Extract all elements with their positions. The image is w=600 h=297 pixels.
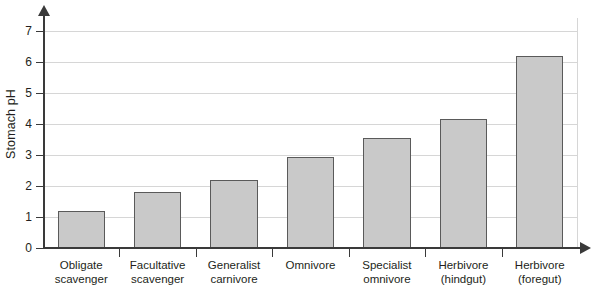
x-tick-mark-2 — [196, 249, 197, 257]
x-axis-arrow-icon — [580, 242, 591, 254]
category-label-3-line-0: Omnivore — [272, 258, 348, 272]
category-label-0-line-0: Obligate — [43, 258, 119, 272]
category-label-6: Herbivore(foregut) — [502, 258, 578, 286]
bar-4 — [363, 138, 410, 248]
y-tick-mark-0 — [36, 248, 43, 249]
x-tick-mark-1 — [119, 249, 120, 257]
category-label-4-line-0: Specialist — [349, 258, 425, 272]
category-label-2-line-0: Generalist — [196, 258, 272, 272]
category-label-2: Generalistcarnivore — [196, 258, 272, 286]
bar-2 — [210, 180, 257, 248]
category-label-0: Obligatescavenger — [43, 258, 119, 286]
y-tick-mark-3 — [36, 155, 43, 156]
y-tick-mark-2 — [36, 186, 43, 187]
gridline-6 — [43, 62, 578, 63]
category-label-0-line-1: scavenger — [43, 272, 119, 286]
x-tick-mark-3 — [272, 249, 273, 257]
category-label-4: Specialistomnivore — [349, 258, 425, 286]
bar-0 — [58, 211, 105, 248]
y-tick-label-2: 2 — [0, 180, 32, 192]
y-tick-mark-6 — [36, 62, 43, 63]
category-label-6-line-0: Herbivore — [502, 258, 578, 272]
gridline-4 — [43, 124, 578, 125]
gridline-5 — [43, 93, 578, 94]
x-tick-mark-5 — [425, 249, 426, 257]
category-label-6-line-1: (foregut) — [502, 272, 578, 286]
plot-right-border — [577, 18, 578, 248]
y-tick-label-6: 6 — [0, 56, 32, 68]
y-tick-mark-4 — [36, 124, 43, 125]
category-label-5-line-0: Herbivore — [425, 258, 501, 272]
x-tick-mark-6 — [502, 249, 503, 257]
category-label-2-line-1: carnivore — [196, 272, 272, 286]
y-tick-label-4: 4 — [0, 118, 32, 130]
y-axis-line — [43, 14, 45, 249]
category-label-3: Omnivore — [272, 258, 348, 272]
x-axis-line — [43, 247, 581, 249]
bar-3 — [287, 157, 334, 248]
y-tick-mark-5 — [36, 93, 43, 94]
y-tick-label-3: 3 — [0, 149, 32, 161]
category-label-1-line-0: Facultative — [119, 258, 195, 272]
bar-5 — [440, 119, 487, 248]
x-tick-mark-4 — [349, 249, 350, 257]
bar-1 — [134, 192, 181, 248]
y-tick-label-5: 5 — [0, 87, 32, 99]
gridline-7 — [43, 31, 578, 32]
y-tick-mark-1 — [36, 217, 43, 218]
bar-chart: Stomach pH 01234567 ObligatescavengerFac… — [0, 0, 600, 297]
plot-area — [43, 18, 578, 248]
y-tick-label-0: 0 — [0, 242, 32, 254]
y-tick-label-1: 1 — [0, 211, 32, 223]
y-tick-label-7: 7 — [0, 25, 32, 37]
category-label-5: Herbivore(hindgut) — [425, 258, 501, 286]
bar-6 — [516, 56, 563, 248]
y-axis-arrow-icon — [38, 5, 50, 16]
category-label-1-line-1: scavenger — [119, 272, 195, 286]
y-tick-mark-7 — [36, 31, 43, 32]
category-label-5-line-1: (hindgut) — [425, 272, 501, 286]
category-label-4-line-1: omnivore — [349, 272, 425, 286]
category-label-1: Facultativescavenger — [119, 258, 195, 286]
